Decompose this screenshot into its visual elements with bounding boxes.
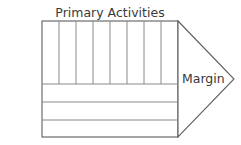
value-chain-diagram: Primary Activities Margin Support Activi… [0,0,241,145]
margin-label: Margin [182,71,225,86]
primary-activities-label: Primary Activities [55,5,164,20]
value-chain-svg: Primary Activities Margin Support Activi… [0,0,241,145]
